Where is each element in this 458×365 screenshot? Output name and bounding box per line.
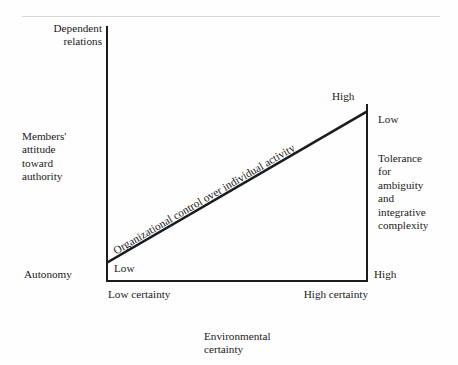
x-axis-line [106, 280, 368, 282]
trend-line-label: Organizational control over individual a… [111, 141, 297, 256]
trend-line [108, 112, 366, 262]
x-axis-high-label: High certainty [298, 288, 368, 301]
diagram-canvas: Organizational control over individual a… [0, 0, 458, 365]
page-rule [22, 16, 440, 17]
x-axis-low-label: Low certainty [108, 288, 170, 301]
y-axis-right-top-label: Low [378, 113, 399, 126]
y-axis-left-title: Members' attitude toward authority [22, 130, 102, 184]
trend-line-end-label: High [332, 90, 354, 103]
trend-line-start-label: Low [114, 262, 135, 275]
y-axis-left-bottom-label: Autonomy [24, 268, 102, 281]
x-axis-title: Environmental certainty [204, 330, 334, 357]
y-axis-right-title: Tolerance for ambiguity and integrative … [378, 152, 454, 232]
y-axis-right-line [366, 104, 368, 282]
y-axis-left-line [106, 26, 108, 282]
y-axis-left-top-label: Dependent relations [30, 22, 102, 49]
y-axis-right-bottom-label: High [374, 268, 396, 281]
